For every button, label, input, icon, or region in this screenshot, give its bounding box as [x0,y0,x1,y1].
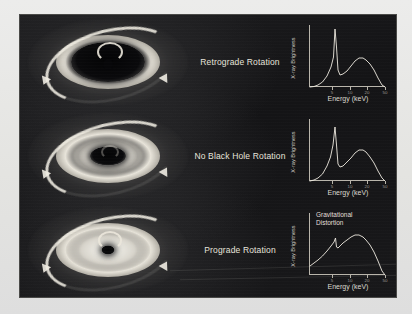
row-prograde: Prograde Rotation X-ray Brightness Gravi… [20,203,396,297]
accretion-disk-no-rotation [24,109,192,203]
label-prograde: Prograde Rotation [192,203,288,297]
figure-root: Retrograde Rotation X-ray Brightness 5 1… [0,0,412,314]
chart-retrograde: X-ray Brightness 5 10 20 50 Energy (keV) [288,21,394,105]
label-no-rotation: No Black Hole Rotation [192,109,288,203]
label-no-rotation-text: No Black Hole Rotation [194,151,285,162]
chart-retrograde-xlabel: Energy (keV) [310,95,386,102]
label-retrograde-text: Retrograde Rotation [200,57,279,68]
chart-prograde: X-ray Brightness Gravitational Distortio… [288,209,394,293]
accretion-disk-prograde [24,203,192,297]
chart-retrograde-curve [288,21,394,105]
row-no-rotation: No Black Hole Rotation X-ray Brightness … [20,109,396,203]
chart-no-rotation-curve [288,115,394,199]
label-retrograde: Retrograde Rotation [192,15,288,109]
accretion-disk-retrograde [24,15,192,109]
chart-prograde-xlabel: Energy (keV) [310,283,386,290]
chart-no-rotation-xlabel: Energy (keV) [310,189,386,196]
label-prograde-text: Prograde Rotation [204,245,276,256]
row-retrograde: Retrograde Rotation X-ray Brightness 5 1… [20,15,396,109]
chart-no-rotation: X-ray Brightness 5 10 20 50 Energy (keV) [288,115,394,199]
chart-prograde-curve [288,209,394,293]
illustration-panel: Retrograde Rotation X-ray Brightness 5 1… [20,15,396,297]
